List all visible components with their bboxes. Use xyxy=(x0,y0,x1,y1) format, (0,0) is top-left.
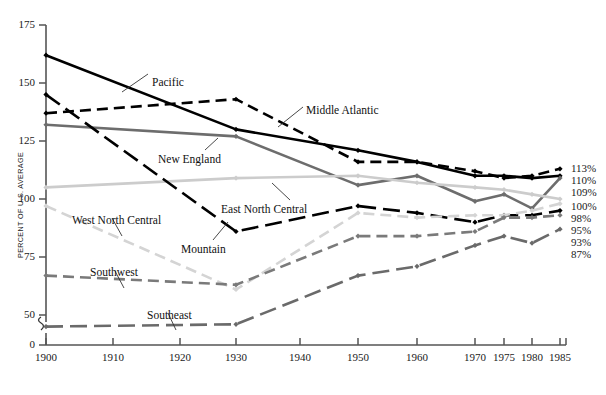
data-point-marker xyxy=(414,234,419,239)
label-leader-line xyxy=(205,138,218,150)
data-point-marker xyxy=(355,203,360,208)
data-point-marker xyxy=(501,187,506,192)
data-point-marker xyxy=(414,264,419,269)
label-leader-line xyxy=(213,222,228,240)
data-point-marker xyxy=(472,220,477,225)
data-point-marker xyxy=(557,208,562,213)
x-axis-tick-label: 1910 xyxy=(87,351,139,363)
y-axis-tick-label: 175 xyxy=(0,18,35,30)
series-line xyxy=(46,99,560,178)
data-point-marker xyxy=(414,215,419,220)
data-point-marker xyxy=(529,192,534,197)
series-label-pacific: Pacific xyxy=(152,76,184,88)
label-leader-line xyxy=(272,183,290,200)
data-point-marker xyxy=(43,122,48,127)
y-axis-tick-label: 50 xyxy=(0,308,35,320)
x-axis-tick-label: 1920 xyxy=(154,351,206,363)
y-axis-tick-label: 0 xyxy=(0,338,35,350)
series-end-value-label: 87% xyxy=(571,248,591,260)
data-point-marker xyxy=(557,213,562,218)
series-label-west-north-central: West North Central xyxy=(72,214,161,226)
series-label-mountain: Mountain xyxy=(181,243,226,255)
data-point-marker xyxy=(557,201,562,206)
line-chart-svg xyxy=(0,0,606,395)
series-line xyxy=(46,125,560,209)
x-axis-tick-label: 1950 xyxy=(332,351,384,363)
series-end-value-label: 113% xyxy=(571,162,596,174)
data-point-marker xyxy=(472,169,477,174)
leader-lines-group xyxy=(112,74,303,330)
data-point-marker xyxy=(355,148,360,153)
series-label-middle-atlantic: Middle Atlantic xyxy=(306,104,379,116)
x-axis-tick-label: 1940 xyxy=(274,351,326,363)
axis-break-mark xyxy=(39,317,44,330)
data-point-marker xyxy=(557,196,562,201)
series-label-east-north-central: East North Central xyxy=(221,203,307,215)
data-point-marker xyxy=(414,180,419,185)
series-label-new-england: New England xyxy=(158,153,221,165)
x-axis-tick-label: 1985 xyxy=(534,351,586,363)
series-end-value-label: 98% xyxy=(571,212,591,224)
data-point-marker xyxy=(43,185,48,190)
data-point-marker xyxy=(43,324,48,329)
data-point-marker xyxy=(355,234,360,239)
x-axis-tick-label: 1960 xyxy=(391,351,443,363)
x-axis-tick-label: 1900 xyxy=(20,351,72,363)
series-end-value-label: 100% xyxy=(571,200,597,212)
series-end-value-label: 110% xyxy=(571,174,596,186)
series-group xyxy=(43,53,562,330)
data-point-marker xyxy=(414,159,419,164)
data-point-marker xyxy=(472,173,477,178)
y-axis-title: PERCENT OF U.S. AVERAGE xyxy=(16,152,25,258)
series-end-value-label: 109% xyxy=(571,186,597,198)
series-end-value-label: 95% xyxy=(571,224,591,236)
series-label-southwest: Southwest xyxy=(90,266,138,278)
data-point-marker xyxy=(472,185,477,190)
data-point-marker xyxy=(472,229,477,234)
data-point-marker xyxy=(43,111,48,116)
x-axis-tick-label: 1930 xyxy=(210,351,262,363)
chart-container: 05075100125150175 1900191019201930194019… xyxy=(0,0,606,395)
y-axis-tick-label: 150 xyxy=(0,76,35,88)
series-end-value-label: 93% xyxy=(571,236,591,248)
y-axis-tick-label: 125 xyxy=(0,134,35,146)
data-point-marker xyxy=(233,176,238,181)
data-point-marker xyxy=(557,166,562,171)
data-point-marker xyxy=(472,213,477,218)
data-point-marker xyxy=(355,173,360,178)
series-line xyxy=(46,55,560,178)
label-leader-line xyxy=(278,107,303,127)
data-point-marker xyxy=(414,210,419,215)
data-point-marker xyxy=(43,273,48,278)
series-label-southeast: Southeast xyxy=(147,309,192,321)
series-line xyxy=(46,176,560,199)
